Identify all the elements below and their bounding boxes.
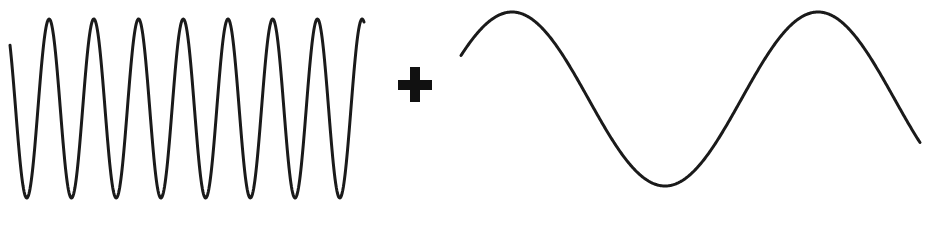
- plus-vertical-bar: [410, 67, 420, 102]
- low-frequency-sine-wave: [461, 12, 920, 186]
- diagram-canvas: [0, 0, 928, 233]
- high-frequency-sine-wave: [10, 19, 364, 198]
- plus-icon: [398, 67, 432, 102]
